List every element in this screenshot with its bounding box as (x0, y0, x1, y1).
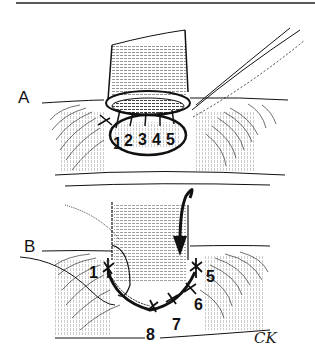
suture-label: 1 (113, 135, 122, 152)
suture-label: 6 (194, 296, 203, 313)
suture-label: 5 (166, 131, 175, 148)
panel-a-label: A (18, 88, 30, 107)
suture-label: 3 (138, 131, 147, 148)
artist-signature: CK (254, 329, 277, 347)
suture-label: 7 (172, 316, 181, 333)
suture-label: 1 (89, 264, 98, 281)
suture-label: 4 (152, 131, 161, 148)
panel-b-label: B (24, 237, 35, 256)
suture-label: 8 (146, 326, 155, 343)
panel-a: A 1 2 3 4 5 (18, 28, 305, 175)
panel-b: B 1 5 6 7 8 (20, 184, 270, 343)
suture-label: 5 (206, 268, 215, 285)
suture-label: 2 (124, 132, 133, 149)
anastomosis-illustration: A 1 2 3 4 5 (0, 0, 315, 363)
